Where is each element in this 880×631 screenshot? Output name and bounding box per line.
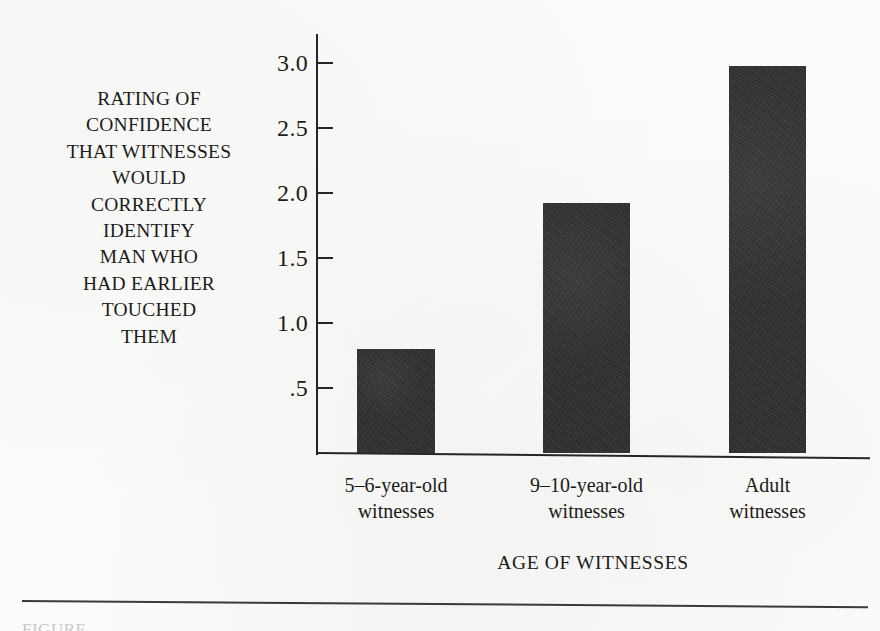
bar-chart-plot: .5 1.0 1.5 2.0 2.5 3.0 5–6-year-old witn… <box>0 0 880 631</box>
y-axis-tick <box>318 257 333 259</box>
bar <box>543 203 630 453</box>
x-label-line: 9–10-year-old <box>487 472 687 498</box>
bar <box>357 349 435 453</box>
y-axis-tick-label: 2.0 <box>246 181 308 205</box>
figure-page: RATING OF CONFIDENCE THAT WITNESSES WOUL… <box>0 0 880 631</box>
y-axis-tick <box>318 387 333 389</box>
x-axis-tick-label: Adult witnesses <box>668 472 868 524</box>
y-axis-tick <box>318 192 333 194</box>
x-axis-tick-label: 5–6-year-old witnesses <box>296 472 496 524</box>
y-axis-tick-label: .5 <box>246 376 308 400</box>
x-axis-tick-label: 9–10-year-old witnesses <box>487 472 687 524</box>
y-axis-tick <box>318 322 333 324</box>
x-label-line: 5–6-year-old <box>296 472 496 498</box>
x-axis-line <box>316 452 870 459</box>
y-axis-tick <box>318 62 333 64</box>
x-label-line: witnesses <box>487 498 687 524</box>
y-axis-tick-label: 1.5 <box>246 246 308 270</box>
x-label-line: witnesses <box>296 498 496 524</box>
x-label-line: Adult <box>668 472 868 498</box>
y-axis-tick-label: 3.0 <box>246 51 308 75</box>
y-axis-tick-label: 2.5 <box>246 116 308 140</box>
y-axis-tick-label: 1.0 <box>246 311 308 335</box>
y-axis-tick <box>318 127 333 129</box>
y-axis-line <box>316 34 318 455</box>
bar <box>729 66 806 453</box>
x-axis-title: AGE OF WITNESSES <box>316 552 870 574</box>
figure-caption-sliver: FIGURE <box>22 620 86 631</box>
x-label-line: witnesses <box>668 498 868 524</box>
